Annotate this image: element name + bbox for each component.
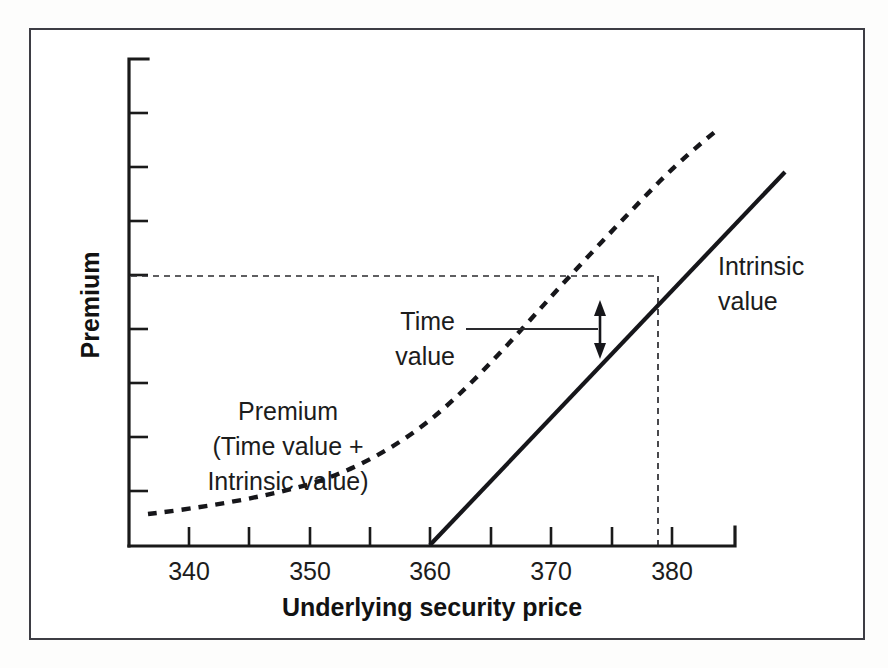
x-tick-label: 380 [651,557,693,585]
x-tick-label: 360 [409,557,451,585]
y-axis-title: Premium [76,252,104,359]
x-tick-label: 350 [289,557,331,585]
time-value-annotation [466,300,606,359]
premium-curve-label: Premium (Time value + Intrinsic value) [207,397,368,495]
time-value-arrow-head-down [594,343,606,359]
x-tick-label: 340 [168,557,210,585]
time-value-label-line-1: Time [400,307,455,335]
intrinsic-value-label-line-2: value [718,287,778,315]
reference-guide-lines [131,276,658,545]
y-axis-line [129,59,148,546]
y-axis-ticks [129,113,148,491]
time-value-label-line-2: value [395,342,455,370]
x-axis-title: Underlying security price [282,593,582,621]
time-value-arrow-head-up [594,300,606,316]
intrinsic-value-label-line-1: Intrinsic [718,252,804,280]
intrinsic-value-line-solid [430,172,785,545]
premium-vs-price-chart: 340 350 360 370 380 Underlying security … [0,0,888,668]
figure-root: 340 350 360 370 380 Underlying security … [0,0,888,668]
x-tick-label: 370 [530,557,572,585]
intrinsic-value-label: Intrinsic value [718,252,804,315]
premium-curve-label-line-1: Premium [238,397,338,425]
premium-curve-label-line-3: Intrinsic value) [207,467,368,495]
premium-curve-label-line-2: (Time value + [212,432,363,460]
x-tick-labels: 340 350 360 370 380 [168,557,693,585]
time-value-label: Time value [395,307,455,370]
